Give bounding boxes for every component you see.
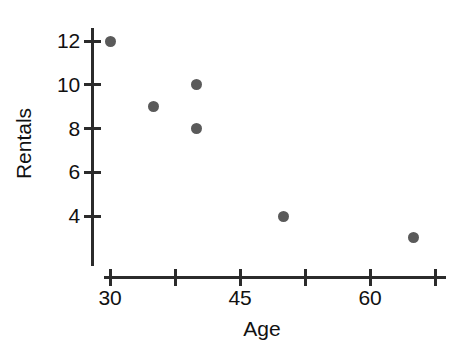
y-axis-tick-label: 6 xyxy=(46,161,80,182)
data-point xyxy=(191,79,202,90)
y-axis-line xyxy=(91,28,94,266)
scatter-plot-figure: 1210864 304560 Age Rentals xyxy=(0,0,462,355)
x-axis-tick xyxy=(369,269,372,286)
y-axis-tick xyxy=(84,171,101,174)
y-axis-tick xyxy=(84,40,101,43)
x-axis-tick xyxy=(109,269,112,286)
x-axis-tick xyxy=(304,269,307,286)
x-axis-tick-label: 30 xyxy=(80,287,140,308)
x-axis-tick xyxy=(434,269,437,286)
y-axis-tick-label: 12 xyxy=(46,30,80,51)
y-axis-tick xyxy=(84,127,101,130)
y-axis-tick xyxy=(84,215,101,218)
y-axis-tick xyxy=(84,83,101,86)
data-point xyxy=(191,123,202,134)
data-point xyxy=(408,232,419,243)
x-axis-title: Age xyxy=(202,318,322,339)
y-axis-tick-label: 8 xyxy=(46,118,80,139)
data-point xyxy=(148,101,159,112)
x-axis-tick xyxy=(174,269,177,286)
x-axis-tick-label: 45 xyxy=(210,287,270,308)
y-axis-tick-label: 4 xyxy=(46,205,80,226)
x-axis-tick-label: 60 xyxy=(340,287,400,308)
scan-artifact xyxy=(58,0,208,6)
x-axis-tick xyxy=(239,269,242,286)
y-axis-title: Rentals xyxy=(13,94,34,194)
y-axis-tick-label: 10 xyxy=(46,74,80,95)
x-axis-line xyxy=(104,276,446,279)
data-point xyxy=(278,211,289,222)
data-point xyxy=(105,36,116,47)
